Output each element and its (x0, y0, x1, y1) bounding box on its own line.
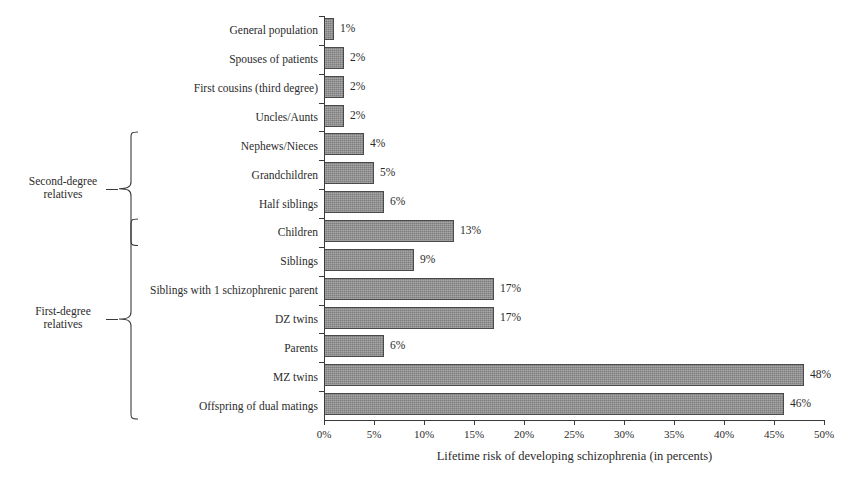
axis-tick (624, 420, 625, 425)
axis-tick-label: 20% (504, 428, 544, 440)
category-tick (319, 103, 324, 104)
axis-tick (824, 420, 825, 425)
axis-tick-label: 40% (704, 428, 744, 440)
bar-row: 17% (324, 276, 824, 303)
category-label: Nephews/Nieces (241, 140, 318, 152)
axis-tick (374, 420, 375, 425)
category-tick (319, 45, 324, 46)
category-label: First cousins (third degree) (194, 82, 318, 94)
axis-tick (574, 420, 575, 425)
category-tick (319, 276, 324, 277)
axis-tick-label: 45% (754, 428, 794, 440)
plot-area: 1%2%2%2%4%5%6%13%9%17%17%6%48%46% (324, 16, 824, 420)
axis-tick-label: 25% (554, 428, 594, 440)
bar-value-label: 4% (370, 137, 385, 149)
bar-value-label: 13% (460, 224, 481, 236)
bar (324, 76, 344, 98)
category-label-column: General populationSpouses of patientsFir… (0, 0, 318, 425)
bar-value-label: 48% (810, 368, 831, 380)
group-label-line-1: Second-degree (14, 175, 112, 188)
category-tick (319, 362, 324, 363)
axis-tick (424, 420, 425, 425)
bar-value-label: 17% (500, 311, 521, 323)
bar-row: 1% (324, 16, 824, 43)
x-axis-title: Lifetime risk of developing schizophreni… (324, 449, 825, 464)
bar-value-label: 46% (790, 397, 811, 409)
bar (324, 220, 454, 242)
axis-tick (724, 420, 725, 425)
axis-tick (674, 420, 675, 425)
bar-value-label: 2% (350, 80, 365, 92)
bar-value-label: 6% (390, 195, 405, 207)
bar (324, 393, 784, 415)
bar-value-label: 5% (380, 166, 395, 178)
category-label: Offspring of dual matings (199, 400, 318, 412)
category-label: DZ twins (275, 313, 318, 325)
category-label: Children (278, 226, 318, 238)
bar (324, 162, 374, 184)
axis-tick (774, 420, 775, 425)
category-label: Spouses of patients (229, 53, 318, 65)
category-tick (319, 391, 324, 392)
bar (324, 335, 384, 357)
bar-row: 5% (324, 160, 824, 187)
group-bracket-label: First-degreerelatives (14, 305, 112, 331)
category-label: Uncles/Aunts (255, 111, 318, 123)
bar-row: 48% (324, 362, 824, 389)
bar-row: 4% (324, 131, 824, 158)
bar-value-label: 9% (420, 253, 435, 265)
bar-row: 13% (324, 218, 824, 245)
bar-row: 6% (324, 189, 824, 216)
axis-tick-label: 50% (804, 428, 844, 440)
bar-value-label: 6% (390, 339, 405, 351)
bar-value-label: 1% (340, 22, 355, 34)
bar (324, 307, 494, 329)
bar (324, 18, 334, 40)
axis-tick-label: 30% (604, 428, 644, 440)
category-tick (319, 218, 324, 219)
category-label: Siblings (280, 255, 318, 267)
axis-tick-label: 5% (354, 428, 394, 440)
bar-value-label: 17% (500, 282, 521, 294)
group-label-line-2: relatives (14, 188, 112, 201)
axis-tick-label: 10% (404, 428, 444, 440)
category-label: Siblings with 1 schizophrenic parent (150, 284, 318, 296)
category-tick (319, 74, 324, 75)
axis-tick-label: 15% (454, 428, 494, 440)
axis-tick (524, 420, 525, 425)
bar-value-label: 2% (350, 51, 365, 63)
bar (324, 133, 364, 155)
bar-row: 17% (324, 305, 824, 332)
group-bracket-label: Second-degreerelatives (14, 175, 112, 201)
bar-row: 2% (324, 45, 824, 72)
axis-tick (324, 420, 325, 425)
bar (324, 364, 804, 386)
category-tick (319, 16, 324, 17)
bar (324, 105, 344, 127)
axis-tick-label: 35% (654, 428, 694, 440)
category-label: Parents (284, 342, 318, 354)
category-label: General population (230, 24, 318, 36)
bar-row: 2% (324, 103, 824, 130)
category-tick (319, 131, 324, 132)
bar-row: 46% (324, 391, 824, 418)
bar-row: 6% (324, 333, 824, 360)
category-tick (319, 189, 324, 190)
axis-tick-label: 0% (304, 428, 344, 440)
bar-row: 2% (324, 74, 824, 101)
group-label-line-1: First-degree (14, 305, 112, 318)
group-bracket (118, 218, 140, 420)
group-label-line-2: relatives (14, 318, 112, 331)
category-label: Grandchildren (252, 169, 318, 181)
category-tick (319, 247, 324, 248)
bar (324, 278, 494, 300)
category-tick (319, 305, 324, 306)
category-axis-line (324, 16, 325, 420)
category-tick (319, 160, 324, 161)
bar (324, 249, 414, 271)
axis-tick (474, 420, 475, 425)
schizophrenia-risk-bar-chart: General populationSpouses of patientsFir… (0, 0, 863, 489)
category-tick (319, 333, 324, 334)
bar (324, 191, 384, 213)
category-label: MZ twins (273, 371, 318, 383)
